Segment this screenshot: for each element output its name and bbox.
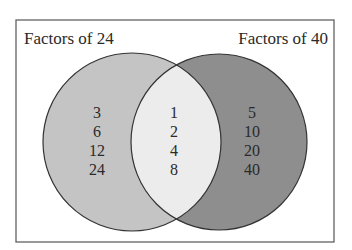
intersection-item: 1 <box>170 104 178 121</box>
left-only-item: 6 <box>93 123 101 140</box>
right-only-item: 20 <box>244 142 260 159</box>
left-only-item: 24 <box>89 161 105 178</box>
right-only-item: 40 <box>244 161 260 178</box>
left-set-title: Factors of 24 <box>24 29 114 48</box>
intersection-item: 4 <box>170 142 178 159</box>
right-only-item: 5 <box>248 104 256 121</box>
right-set-title: Factors of 40 <box>238 29 328 48</box>
intersection-item: 2 <box>170 123 178 140</box>
right-only-item: 10 <box>244 123 260 140</box>
left-only-item: 12 <box>89 142 105 159</box>
intersection-item: 8 <box>170 161 178 178</box>
venn-diagram: Factors of 24 Factors of 40 3 6 12 24 1 … <box>0 0 352 250</box>
left-only-item: 3 <box>93 104 101 121</box>
